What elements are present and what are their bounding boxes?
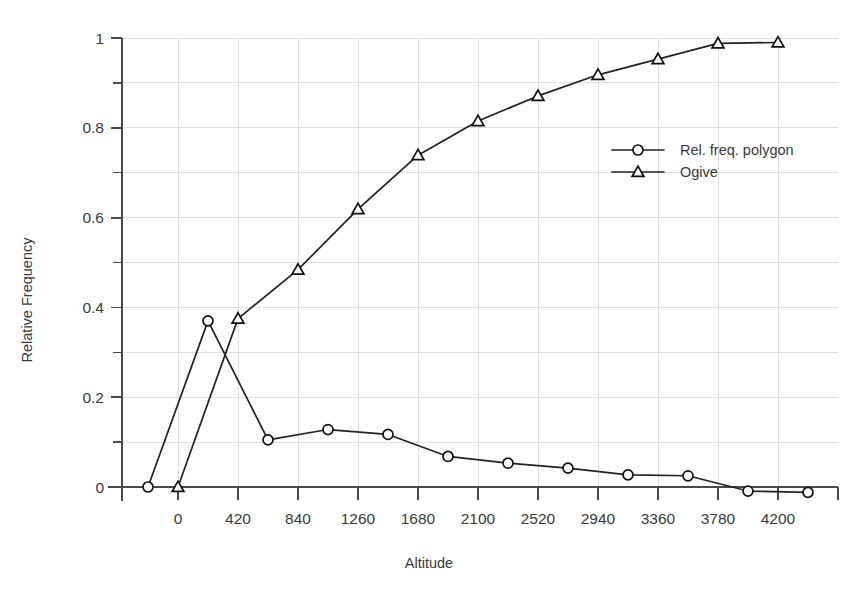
y-tick-label: 0.2 [82,389,104,406]
data-point-circle [263,435,273,445]
x-tick-label: 3780 [701,510,736,527]
x-tick-label: 4200 [761,510,796,527]
y-tick-label: 0 [95,479,104,496]
data-point-circle [563,463,573,473]
x-tick-label: 2520 [521,510,556,527]
y-tick-label: 0.4 [82,299,104,316]
y-tick-label: 0.8 [82,119,104,136]
data-point-circle [383,429,393,439]
data-point-circle [623,470,633,480]
data-point-circle [803,487,813,497]
chart-canvas: 00.20.40.60.8104208401260168021002520294… [0,0,858,606]
data-point-circle [683,471,693,481]
y-axis-title: Relative Frequency [19,237,35,363]
data-point-circle [443,451,453,461]
x-tick-label: 3360 [641,510,676,527]
x-tick-label: 0 [174,510,183,527]
x-tick-label: 1680 [401,510,436,527]
data-point-circle [323,425,333,435]
data-point-circle [203,316,213,326]
x-tick-label: 2100 [461,510,496,527]
x-tick-label: 840 [285,510,311,527]
data-point-circle [503,458,513,468]
data-point-circle [743,486,753,496]
y-tick-label: 0.6 [82,209,104,226]
data-point-circle-legend [633,145,643,155]
chart-figure: 00.20.40.60.8104208401260168021002520294… [0,0,858,606]
x-tick-label: 420 [225,510,251,527]
legend-entry: Rel. freq. polygon [612,142,794,158]
data-point-circle [143,482,153,492]
x-axis-title: Altitude [405,555,453,571]
y-tick-label: 1 [95,30,104,47]
x-tick-label: 2940 [581,510,616,527]
x-tick-label: 1260 [341,510,376,527]
legend-label: Rel. freq. polygon [680,142,794,158]
legend-label: Ogive [680,164,718,180]
